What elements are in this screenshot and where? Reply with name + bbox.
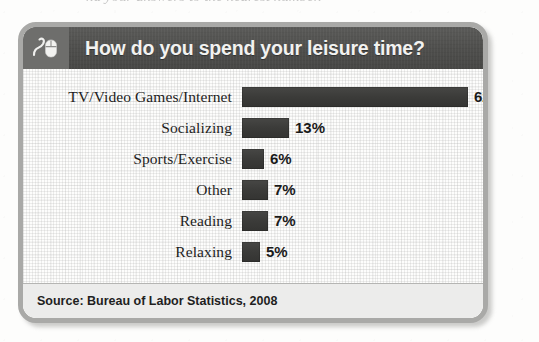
- bar-row: Relaxing5%: [23, 236, 483, 267]
- bar: [242, 242, 260, 262]
- computer-mouse-icon: [23, 27, 69, 69]
- bar-category-label: TV/Video Games/Internet: [23, 88, 242, 106]
- bar-value-label: 5%: [266, 243, 288, 260]
- infographic-card: How do you spend your leisure time? TV/V…: [18, 22, 488, 323]
- bar-track: 13%: [242, 118, 483, 138]
- bar-track: 6%: [242, 149, 483, 169]
- bar-row: TV/Video Games/Internet62%: [23, 81, 483, 112]
- bar: [242, 118, 289, 138]
- bar-value-label: 7%: [274, 181, 296, 198]
- bar-rows-container: TV/Video Games/Internet62%Socializing13%…: [23, 81, 483, 267]
- bar: [242, 87, 468, 107]
- bar-value-label: 62%: [474, 88, 483, 105]
- bar-value-label: 7%: [274, 212, 296, 229]
- bar-row: Socializing13%: [23, 112, 483, 143]
- scanned-page-background: nd your answers to the nearest number. H…: [0, 0, 539, 342]
- bar-track: 7%: [242, 211, 483, 231]
- chart-header: How do you spend your leisure time?: [23, 27, 483, 69]
- bar: [242, 211, 268, 231]
- bar-track: 5%: [242, 242, 483, 262]
- chart-title: How do you spend your leisure time?: [85, 37, 425, 60]
- bar-category-label: Relaxing: [23, 243, 242, 261]
- bar-track: 7%: [242, 180, 483, 200]
- bar-row: Reading7%: [23, 205, 483, 236]
- source-text: Source: Bureau of Labor Statistics, 2008: [37, 294, 277, 308]
- bar-track: 62%: [242, 87, 483, 107]
- chart-plot-area: TV/Video Games/Internet62%Socializing13%…: [23, 69, 483, 284]
- bar-value-label: 6%: [270, 150, 292, 167]
- bar-value-label: 13%: [295, 119, 325, 136]
- chart-footer: Source: Bureau of Labor Statistics, 2008: [23, 283, 483, 318]
- bar-category-label: Socializing: [23, 119, 242, 137]
- bar-category-label: Other: [23, 181, 242, 199]
- bar-row: Sports/Exercise6%: [23, 143, 483, 174]
- bar-row: Other7%: [23, 174, 483, 205]
- bar: [242, 180, 268, 200]
- bar-category-label: Sports/Exercise: [23, 150, 242, 168]
- cutoff-body-text: nd your answers to the nearest number.: [86, 0, 486, 6]
- bar-category-label: Reading: [23, 212, 242, 230]
- bar: [242, 149, 264, 169]
